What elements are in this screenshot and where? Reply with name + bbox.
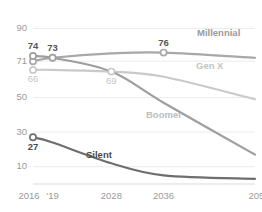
series-label-gen-x: Gen X (196, 60, 224, 71)
x-axis-tick-labels: 2016'19202820362050 (18, 190, 262, 201)
x-tick-2028: 2028 (101, 190, 122, 201)
point-label-millennial-76: 76 (158, 37, 169, 48)
series-label-silent: Silent (86, 149, 113, 160)
chart-canvas: 9071503010 2016'19202820362050 747376666… (0, 0, 262, 212)
x-tick-2016: 2016 (18, 190, 39, 201)
y-tick-50: 50 (16, 91, 27, 102)
y-tick-10: 10 (16, 160, 27, 171)
series-lines-group (33, 52, 255, 179)
generational-line-chart: 9071503010 2016'19202820362050 747376666… (0, 0, 262, 212)
series-line-silent (33, 137, 255, 179)
series-markers-group (30, 49, 167, 140)
point-label-boomer-74: 74 (28, 40, 39, 51)
x-tick-'19: '19 (46, 190, 58, 201)
marker-boomer-2019 (49, 55, 55, 61)
series-line-gen-x (33, 70, 255, 100)
point-label-gen-x-69: 69 (106, 75, 117, 86)
marker-silent-2016 (30, 134, 36, 140)
point-label-silent-27: 27 (28, 141, 39, 152)
x-tick-2036: 2036 (153, 190, 174, 201)
y-tick-30: 30 (16, 126, 27, 137)
y-tick-90: 90 (16, 22, 27, 33)
marker-millennial-2036 (160, 49, 166, 55)
point-label-boomer-73: 73 (47, 42, 58, 53)
marker-boomer-2016 (30, 53, 36, 59)
y-tick-71: 71 (16, 55, 27, 66)
series-label-boomer: Boomer (146, 109, 182, 120)
x-tick-2050: 2050 (248, 190, 262, 201)
point-label-gen-x-66: 66 (28, 73, 39, 84)
series-label-millennial: Millennial (197, 27, 240, 38)
y-axis-tick-labels: 9071503010 (16, 22, 27, 171)
